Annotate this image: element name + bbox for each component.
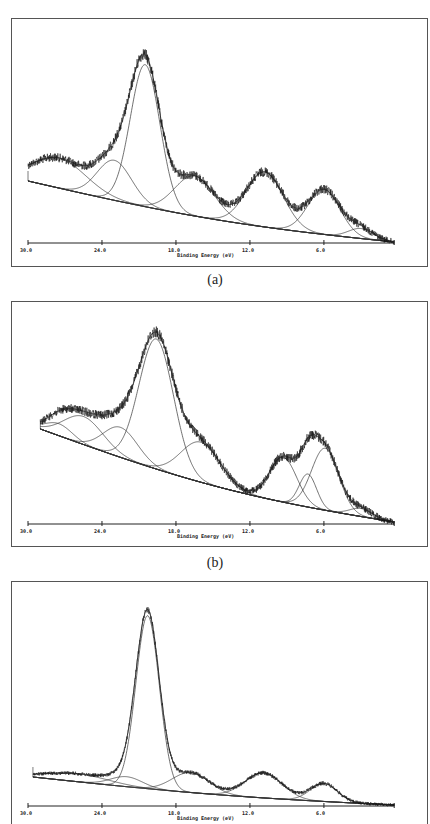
fit-component-peak [33, 777, 394, 805]
fit-component-peak [28, 157, 394, 242]
measured-spectrum [40, 327, 394, 525]
x-axis-label: Binding Energy (eV) [177, 533, 234, 540]
x-tick-label: 6.0 [316, 810, 325, 816]
spectrum-panel-c: 30.024.018.012.06.0Binding Energy (eV) [12, 582, 428, 824]
x-axis-label: Binding Energy (eV) [177, 252, 234, 259]
fit-component-peak [40, 339, 394, 522]
x-tick-label: 30.0 [20, 528, 32, 534]
chart-panel-a: 30.024.018.012.06.0Binding Energy (eV)30… [0, 0, 430, 824]
fit-envelope [28, 54, 394, 242]
fit-component-peak [33, 773, 394, 805]
caption-a: (a) [0, 272, 430, 288]
fit-component-peak [40, 429, 394, 522]
fit-component-peak [28, 160, 394, 242]
x-tick-label: 24.0 [94, 247, 106, 253]
fit-component-peak [33, 772, 394, 805]
measured-spectrum [33, 607, 394, 806]
fit-component-peak [33, 773, 394, 805]
fit-component-peak [28, 172, 394, 242]
x-tick-label: 12.0 [242, 810, 254, 816]
fit-component-peak [40, 416, 394, 522]
spectrum-panel-b: 30.024.018.012.06.0Binding Energy (eV) [12, 302, 428, 547]
fit-component-peak [40, 427, 394, 522]
x-tick-label: 6.0 [316, 528, 325, 534]
background-line [40, 429, 394, 522]
fit-envelope [40, 332, 394, 522]
fit-component-peak [40, 429, 394, 522]
measured-spectrum [28, 49, 394, 244]
x-tick-label: 30.0 [20, 810, 32, 816]
x-tick-label: 30.0 [20, 247, 32, 253]
fit-component-peak [40, 423, 394, 522]
x-tick-label: 6.0 [316, 247, 325, 253]
fit-component-peak [33, 616, 394, 805]
fit-envelope [33, 610, 394, 805]
x-axis-label: Binding Energy (eV) [177, 815, 234, 822]
x-tick-label: 12.0 [242, 247, 254, 253]
caption-b: (b) [0, 555, 430, 571]
fit-component-peak [28, 65, 394, 242]
x-tick-label: 24.0 [94, 810, 106, 816]
fit-component-peak [40, 429, 394, 522]
fit-component-peak [40, 429, 394, 522]
spectrum-panel-a: 30.024.018.012.06.0Binding Energy (eV) [12, 19, 428, 267]
fit-component-peak [40, 429, 394, 522]
fit-component-peak [33, 777, 394, 805]
x-tick-label: 12.0 [242, 528, 254, 534]
x-tick-label: 24.0 [94, 528, 106, 534]
background-line [33, 777, 394, 805]
